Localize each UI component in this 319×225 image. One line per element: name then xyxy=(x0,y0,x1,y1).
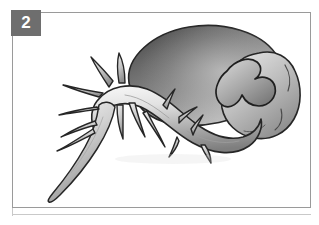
germinating-seed-illustration xyxy=(13,13,311,208)
baseline-rule xyxy=(12,214,311,215)
radicle-tip xyxy=(48,102,115,202)
left-margin-rule xyxy=(12,208,13,216)
figure-panel: 2 xyxy=(0,0,319,225)
illustration-frame xyxy=(12,12,311,208)
contact-shadow xyxy=(115,154,231,164)
panel-number-badge: 2 xyxy=(11,10,41,36)
